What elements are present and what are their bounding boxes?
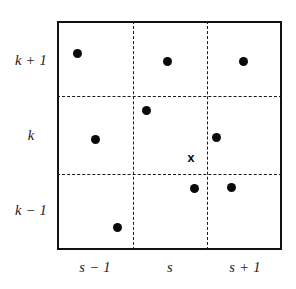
y-axis-label-k: k xyxy=(28,127,35,144)
data-point xyxy=(239,57,248,66)
query-point-x-marker: x xyxy=(188,152,195,165)
data-point xyxy=(163,57,172,66)
data-point xyxy=(73,49,82,58)
data-point xyxy=(91,135,100,144)
y-axis-label-k-minus-1: k − 1 xyxy=(15,202,47,219)
data-point xyxy=(113,223,122,232)
data-point xyxy=(190,184,199,193)
x-axis-label-s-plus-1: s + 1 xyxy=(229,259,260,276)
plot-frame xyxy=(57,21,282,250)
gridline-vertical-2 xyxy=(207,21,208,250)
gridline-horizontal-2 xyxy=(57,174,282,175)
gridline-vertical-1 xyxy=(133,21,134,250)
y-axis-label-k-plus-1: k + 1 xyxy=(15,52,47,69)
scatter-figure: x k + 1 k k − 1 s − 1 s s + 1 xyxy=(0,0,296,289)
data-point xyxy=(142,106,151,115)
x-axis-label-s: s xyxy=(167,259,173,276)
data-point xyxy=(227,183,236,192)
gridline-horizontal-1 xyxy=(57,96,282,97)
x-axis-label-s-minus-1: s − 1 xyxy=(79,259,110,276)
data-point xyxy=(212,133,221,142)
